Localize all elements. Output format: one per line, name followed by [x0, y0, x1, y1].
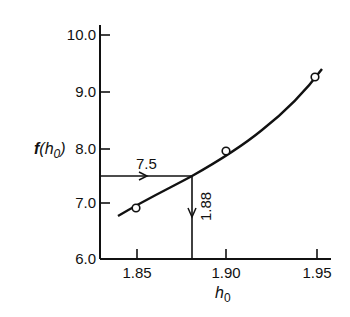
y-tick-label: 6.0 — [75, 250, 96, 267]
chart: 10.0 9.0 8.0 7.0 6.0 1.85 1.90 1.95 f)(h… — [0, 0, 350, 317]
data-markers — [132, 73, 319, 212]
y-tick-label: 8.0 — [75, 140, 96, 157]
marker-1-95 — [311, 73, 319, 81]
y-tick-label: 7.0 — [75, 194, 96, 211]
y-tick-label: 10.0 — [67, 26, 96, 43]
f-curve — [118, 69, 322, 216]
y-axis-title: f)(h0) — [34, 140, 66, 161]
x-tick-labels: 1.85 1.90 1.95 — [122, 264, 331, 281]
y-axis-title-paren: (h — [39, 140, 53, 157]
x-axis-title: h0 — [215, 284, 231, 305]
y-ticks — [100, 35, 110, 203]
y-axis-title-close: ) — [58, 140, 65, 157]
vline-label: 1.88 — [197, 192, 214, 221]
x-ticks — [137, 249, 317, 259]
hline-label: 7.5 — [136, 155, 157, 172]
marker-1-85 — [132, 204, 140, 212]
x-tick-label: 1.95 — [302, 264, 331, 281]
x-axis-title-h: h — [215, 284, 224, 301]
axes — [100, 25, 331, 259]
y-tick-label: 9.0 — [75, 83, 96, 100]
marker-1-90 — [222, 147, 230, 155]
x-axis-title-sub: 0 — [224, 291, 231, 305]
x-tick-label: 1.90 — [211, 264, 240, 281]
annotations: 7.5 1.88 — [100, 155, 214, 259]
y-tick-labels: 10.0 9.0 8.0 7.0 6.0 — [67, 26, 96, 267]
x-tick-label: 1.85 — [122, 264, 151, 281]
